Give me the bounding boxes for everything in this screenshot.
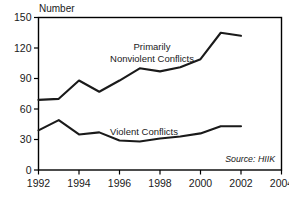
x-tick-label-2000: 2000 bbox=[189, 177, 213, 189]
x-tick-label-1996: 1996 bbox=[108, 177, 132, 189]
series-label-violent: Violent Conflicts bbox=[110, 126, 178, 137]
series-label-nonviolent-line2: Nonviolent Conflicts bbox=[110, 53, 194, 64]
y-tick-label-150: 150 bbox=[14, 11, 32, 23]
source-attribution: Source: HIIK bbox=[225, 154, 276, 164]
y-tick-label-60: 60 bbox=[20, 103, 32, 115]
y-tick-label-90: 90 bbox=[20, 72, 32, 84]
y-tick-label-120: 120 bbox=[14, 42, 32, 54]
y-tick-label-30: 30 bbox=[20, 133, 32, 145]
y-axis-ticks: 0306090120150 bbox=[14, 11, 39, 176]
x-tick-label-2002: 2002 bbox=[229, 177, 253, 189]
x-tick-label-1992: 1992 bbox=[27, 177, 51, 189]
chart-container: Number 0306090120150 1992199419961998200… bbox=[0, 0, 289, 200]
x-axis-ticks: 1992199419961998200020022004 bbox=[27, 170, 289, 189]
series-label-nonviolent-line1: Primarily bbox=[134, 41, 171, 52]
x-tick-label-1994: 1994 bbox=[67, 177, 91, 189]
x-tick-label-1998: 1998 bbox=[148, 177, 172, 189]
line-chart: Number 0306090120150 1992199419961998200… bbox=[0, 0, 289, 200]
x-tick-label-2004: 2004 bbox=[270, 177, 289, 189]
y-tick-label-0: 0 bbox=[26, 164, 32, 176]
y-axis-title: Number bbox=[39, 3, 75, 14]
